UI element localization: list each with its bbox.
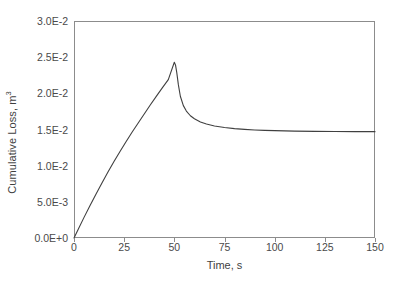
x-tick-label: 0: [71, 241, 77, 253]
x-tick-label: 75: [219, 241, 231, 253]
x-tick-label: 125: [316, 241, 334, 253]
x-tick-label: 50: [168, 241, 180, 253]
y-axis-title-text: Cumulative Loss, m3: [6, 91, 18, 194]
x-tick-label: 100: [266, 241, 284, 253]
x-tick-label: 150: [366, 241, 384, 253]
series-line-cumulative-loss: [74, 62, 375, 238]
y-axis-title: Cumulative Loss, m3: [0, 0, 24, 285]
y-axis-unit-exponent: 3: [4, 91, 13, 95]
x-tick-label: 25: [118, 241, 130, 253]
data-curve-svg: [74, 21, 375, 238]
chart-figure: Cumulative Loss, m3 0.0E+05.0E-31.0E-21.…: [0, 0, 396, 285]
x-axis-title: Time, s: [74, 259, 375, 271]
